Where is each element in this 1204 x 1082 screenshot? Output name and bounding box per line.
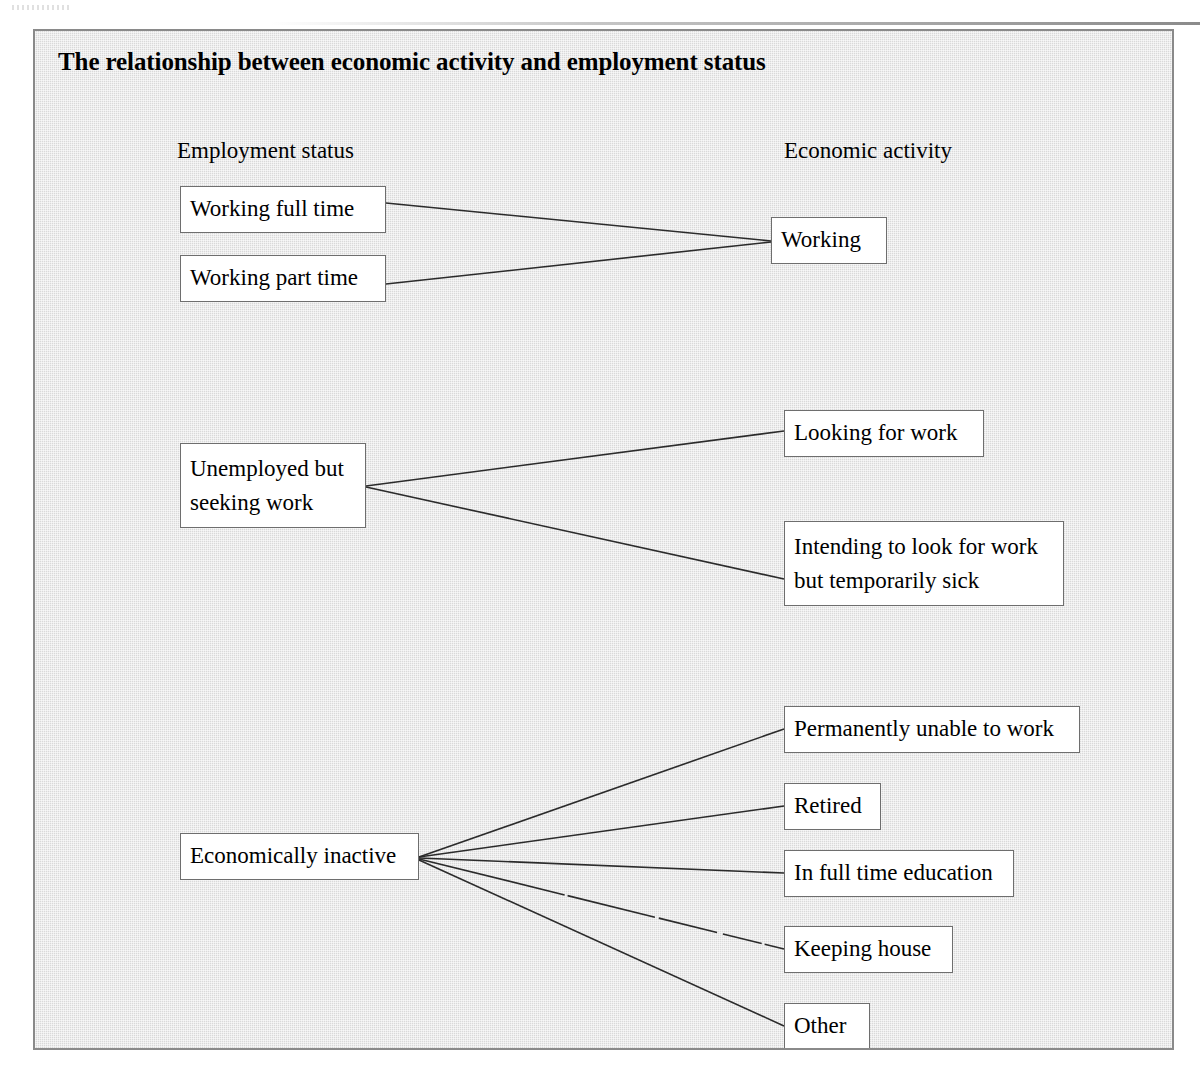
node-looking-for-work[interactable]: Looking for work <box>784 410 984 457</box>
connector-inactive-to-permanently-unable <box>419 729 784 857</box>
node-economically-inactive[interactable]: Economically inactive <box>180 833 419 880</box>
node-unemployed-but-seeking-work[interactable]: Unemployed but seeking work <box>180 443 366 528</box>
node-in-full-time-education[interactable]: In full time education <box>784 850 1014 897</box>
scan-artifact-top-streak <box>270 22 1200 25</box>
column-header-employment-status: Employment status <box>177 138 354 164</box>
connector-unemployed-to-intending-sick <box>366 487 784 579</box>
node-retired[interactable]: Retired <box>784 783 881 830</box>
scan-artifact-top-left <box>12 5 72 10</box>
connector-inactive-to-retired <box>419 806 784 857</box>
connector-unemployed-to-looking-for-work <box>366 431 784 486</box>
node-intending-to-look-for-work-but-temporarily-sick[interactable]: Intending to look for work but temporari… <box>784 521 1064 606</box>
connector-inactive-to-other <box>419 860 784 1026</box>
connector-working-full-time-to-working <box>386 203 771 241</box>
node-working-part-time[interactable]: Working part time <box>180 255 386 302</box>
node-working[interactable]: Working <box>771 217 887 264</box>
connector-inactive-to-full-time-education <box>419 858 784 873</box>
page-title: The relationship between economic activi… <box>58 48 766 76</box>
diagram-frame: The relationship between economic activi… <box>33 29 1174 1050</box>
connector-working-part-time-to-working <box>386 242 771 284</box>
node-keeping-house[interactable]: Keeping house <box>784 926 953 973</box>
connector-inactive-to-keeping-house <box>419 859 784 949</box>
node-permanently-unable-to-work[interactable]: Permanently unable to work <box>784 706 1080 753</box>
column-header-economic-activity: Economic activity <box>784 138 952 164</box>
node-other[interactable]: Other <box>784 1003 870 1050</box>
node-working-full-time[interactable]: Working full time <box>180 186 386 233</box>
